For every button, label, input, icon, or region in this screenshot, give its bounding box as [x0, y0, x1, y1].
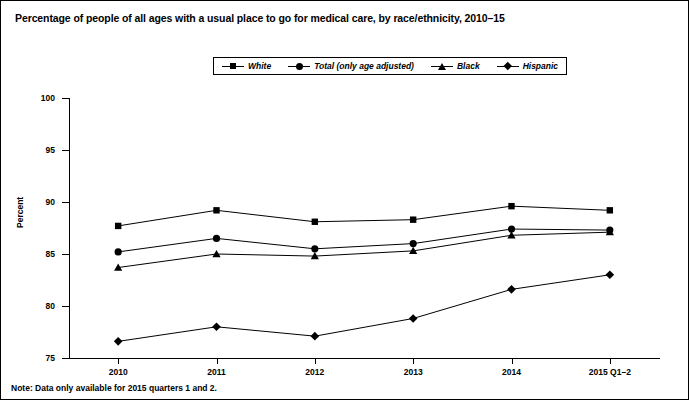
data-point-marker — [507, 285, 516, 294]
series-line-total — [118, 229, 610, 252]
legend-label-black: Black — [457, 61, 480, 71]
x-axis-tick — [413, 358, 414, 364]
x-axis-tick — [610, 358, 611, 364]
x-axis-tick — [217, 358, 218, 364]
data-point-marker — [410, 216, 416, 222]
legend-item-black[interactable]: Black — [431, 61, 480, 71]
x-axis-tick-label: 2012 — [305, 367, 324, 377]
y-axis-tick-label: 100 — [31, 93, 55, 103]
legend-swatch-hispanic — [497, 62, 519, 71]
chart-legend: White Total (only age adjusted) Black Hi… — [213, 57, 567, 75]
series-lines — [69, 98, 659, 358]
legend-item-total[interactable]: Total (only age adjusted) — [288, 61, 414, 71]
y-axis-tick-label: 95 — [31, 145, 55, 155]
data-point-marker — [607, 207, 613, 213]
y-axis-tick — [62, 98, 69, 99]
x-axis-tick-label: 2010 — [109, 367, 128, 377]
legend-item-white[interactable]: White — [222, 61, 271, 71]
series-line-black — [118, 232, 610, 267]
data-point-marker — [311, 332, 320, 341]
y-axis-label: Percent — [15, 197, 25, 228]
chart-note: Note: Data only available for 2015 quart… — [11, 383, 217, 393]
x-axis-tick-label: 2013 — [404, 367, 423, 377]
y-axis-tick — [62, 150, 69, 151]
x-axis-tick — [118, 358, 119, 364]
y-axis-tick — [62, 254, 69, 255]
data-point-marker — [508, 203, 514, 209]
data-point-marker — [115, 223, 121, 229]
data-point-marker — [212, 250, 220, 257]
data-point-marker — [115, 248, 122, 255]
y-axis-tick-label: 75 — [31, 353, 55, 363]
series-line-hispanic — [118, 275, 610, 342]
y-axis-tick-label: 80 — [31, 301, 55, 311]
legend-swatch-white — [222, 62, 244, 71]
y-axis-tick-label: 85 — [31, 249, 55, 259]
x-axis-tick-label: 2014 — [502, 367, 521, 377]
y-axis-tick — [62, 202, 69, 203]
data-point-marker — [410, 240, 417, 247]
page-title: Percentage of people of all ages with a … — [15, 12, 505, 24]
circle-marker-icon — [296, 63, 303, 70]
legend-label-hispanic: Hispanic — [523, 61, 558, 71]
plot-area — [69, 98, 659, 358]
data-point-marker — [114, 337, 123, 346]
x-axis-tick-label: 2011 — [207, 367, 225, 377]
data-point-marker — [212, 323, 221, 332]
data-point-marker — [213, 235, 220, 242]
legend-label-total: Total (only age adjusted) — [314, 61, 414, 71]
chart-figure: Percentage of people of all ages with a … — [0, 0, 689, 400]
y-axis-tick — [62, 358, 69, 359]
y-axis-tick — [62, 306, 69, 307]
data-point-marker — [213, 207, 219, 213]
x-axis-tick — [315, 358, 316, 364]
data-point-marker — [409, 314, 418, 323]
triangle-marker-icon — [438, 63, 446, 70]
data-point-marker — [312, 219, 318, 225]
data-point-marker — [606, 271, 615, 280]
data-point-marker — [311, 245, 318, 252]
series-line-white — [118, 206, 610, 226]
square-marker-icon — [230, 63, 236, 69]
legend-label-white: White — [248, 61, 271, 71]
legend-swatch-total — [288, 62, 310, 71]
x-axis-tick — [512, 358, 513, 364]
x-axis-tick-label: 2015 Q1–2 — [589, 367, 631, 377]
legend-item-hispanic[interactable]: Hispanic — [497, 61, 558, 71]
y-axis-tick-label: 90 — [31, 197, 55, 207]
legend-swatch-black — [431, 62, 453, 71]
x-axis-line — [69, 358, 660, 359]
diamond-marker-icon — [504, 62, 512, 70]
